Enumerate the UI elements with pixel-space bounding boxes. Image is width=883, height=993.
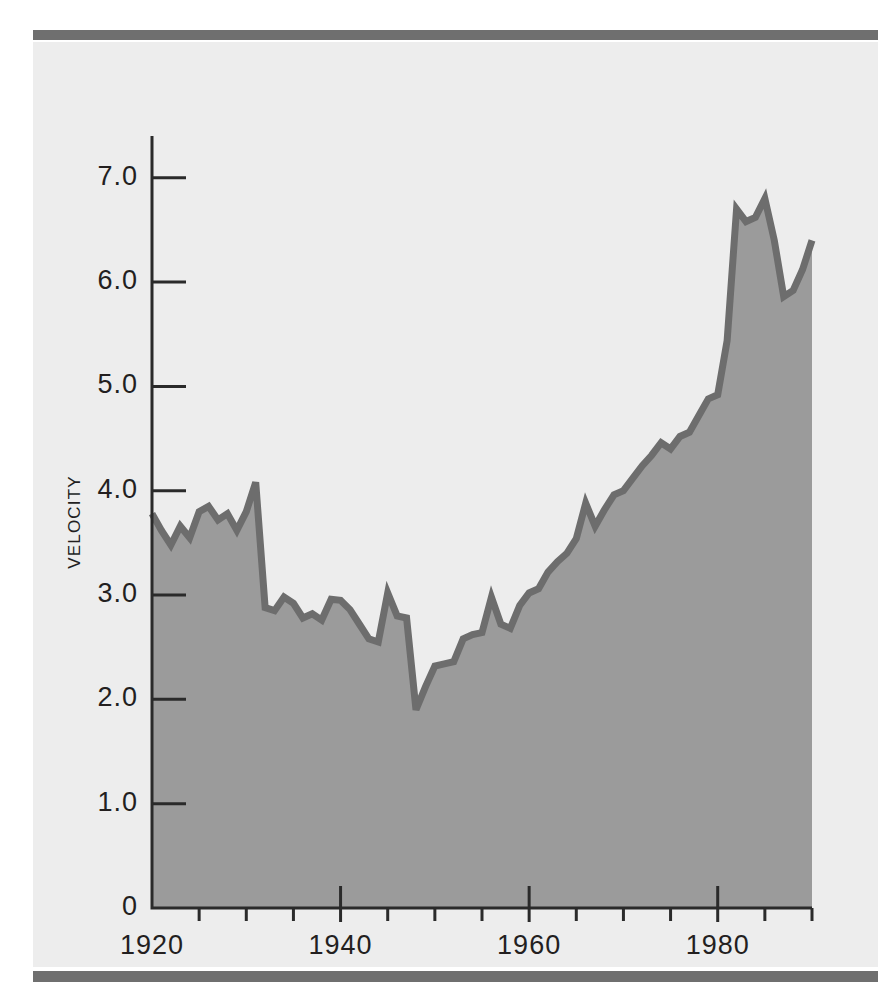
x-tick-label: 1940 xyxy=(281,930,401,961)
chart-svg xyxy=(33,42,878,967)
y-tick-label: 5.0 xyxy=(48,369,138,400)
y-tick-label: 3.0 xyxy=(48,578,138,609)
velocity-area-chart: 01.02.03.04.05.06.07.0 1920194019601980 … xyxy=(33,42,878,967)
y-tick-label: 6.0 xyxy=(48,265,138,296)
y-tick-label: 7.0 xyxy=(48,161,138,192)
x-tick-label: 1920 xyxy=(92,930,212,961)
series-area-group xyxy=(152,199,812,908)
bottom-rule xyxy=(33,971,878,982)
y-tick-label: 2.0 xyxy=(48,682,138,713)
y-tick-label: 0 xyxy=(48,891,138,922)
figure-page: 01.02.03.04.05.06.07.0 1920194019601980 … xyxy=(0,0,883,993)
x-tick-label: 1980 xyxy=(658,930,778,961)
y-tick-label: 4.0 xyxy=(48,474,138,505)
figure-panel: 01.02.03.04.05.06.07.0 1920194019601980 … xyxy=(33,42,878,967)
top-rule xyxy=(33,30,878,40)
x-tick-label: 1960 xyxy=(469,930,589,961)
series-area-fill xyxy=(152,199,812,908)
y-tick-label: 1.0 xyxy=(48,787,138,818)
y-axis-title: VELOCITY xyxy=(65,452,85,592)
